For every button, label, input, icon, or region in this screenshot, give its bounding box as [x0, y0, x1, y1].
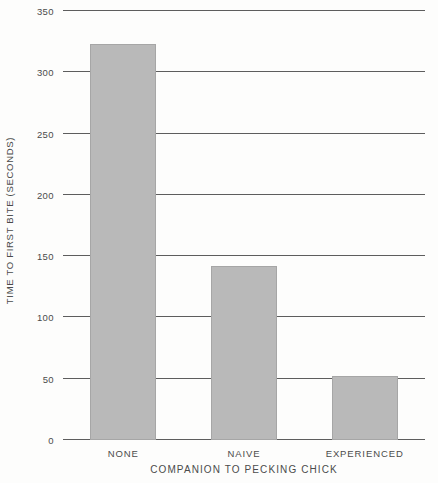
y-axis-tick-label: 150 — [37, 251, 54, 262]
y-axis-tick-label: 350 — [37, 6, 54, 17]
x-axis-tick-label: NONE — [108, 448, 139, 459]
y-axis-tick-label: 300 — [37, 67, 54, 78]
bars-group — [63, 11, 425, 440]
y-axis-tick-label: 50 — [43, 373, 54, 384]
y-axis-title-text: TIME TO FIRST BITE (SECONDS) — [5, 136, 16, 303]
bar — [90, 44, 156, 440]
y-axis-tick-label: 200 — [37, 189, 54, 200]
y-axis-title: TIME TO FIRST BITE (SECONDS) — [0, 0, 20, 440]
y-axis-tick-label: 0 — [48, 435, 54, 446]
bar — [211, 266, 277, 440]
bar — [332, 376, 398, 440]
y-axis-tick-label: 250 — [37, 128, 54, 139]
bar-chart-figure: TIME TO FIRST BITE (SECONDS) 05010015020… — [0, 0, 438, 483]
x-axis-tick-label: NAIVE — [227, 448, 260, 459]
y-axis-tick-label: 100 — [37, 312, 54, 323]
x-axis-tick-label: EXPERIENCED — [326, 448, 404, 459]
x-axis-title: COMPANION TO PECKING CHICK — [63, 464, 425, 475]
plot-area: 050100150200250300350 — [63, 11, 425, 440]
